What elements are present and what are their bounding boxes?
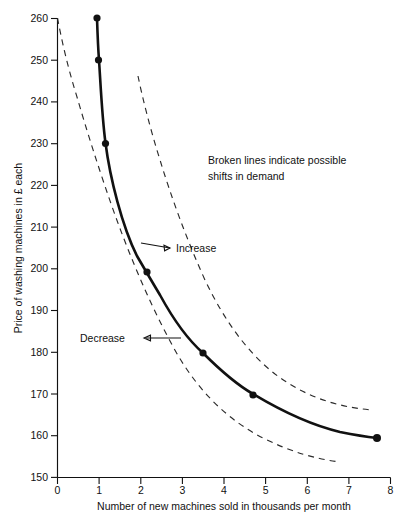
y-tick-label-190: 190 [30,304,48,316]
increase-label: Increase [176,242,216,254]
data-point-3 [102,140,109,147]
x-tick-label-1: 1 [96,484,102,496]
y-axis-ticks [51,19,58,478]
data-point-4 [143,268,150,275]
demand-curve-chart: 260 250 240 230 220 210 200 190 180 170 … [0,0,404,519]
x-tick-label-3: 3 [179,484,185,496]
y-tick-label-160: 160 [30,429,48,441]
y-tick-label-170: 170 [30,388,48,400]
data-point-7 [373,434,381,442]
y-axis-title: Price of washing machines in £ each [12,163,24,334]
y-tick-label-260: 260 [30,12,48,24]
chart-svg: 260 250 240 230 220 210 200 190 180 170 … [0,0,404,519]
y-tick-label-180: 180 [30,346,48,358]
y-tick-label-240: 240 [30,95,48,107]
y-tick-label-200: 200 [30,262,48,274]
x-tick-label-0: 0 [55,484,61,496]
y-axis-tick-labels: 260 250 240 230 220 210 200 190 180 170 … [30,12,48,483]
x-tick-label-8: 8 [388,484,394,496]
y-tick-label-210: 210 [30,221,48,233]
y-tick-label-230: 230 [30,137,48,149]
broken-lines-note-line1: Broken lines indicate possible [208,154,346,166]
broken-lines-note: Broken lines indicate possible shifts in… [208,154,346,182]
x-tick-label-7: 7 [346,484,352,496]
y-tick-label-150: 150 [30,471,48,483]
broken-lines-note-line2: shifts in demand [208,170,285,182]
x-axis-tick-labels: 0 1 2 3 4 5 6 7 8 [55,484,394,496]
x-axis-title: Number of new machines sold in thousands… [97,500,351,512]
x-tick-label-5: 5 [263,484,269,496]
decrease-label: Decrease [80,332,125,344]
axes [58,18,391,478]
increase-annotation: Increase [141,242,216,254]
data-point-5 [199,349,206,356]
increase-shift-curve [138,76,372,410]
demand-curve-markers [93,14,381,442]
x-tick-label-4: 4 [221,484,227,496]
data-point-2 [95,56,102,63]
data-point-6 [249,391,256,398]
x-tick-label-2: 2 [138,484,144,496]
y-tick-label-220: 220 [30,179,48,191]
x-tick-label-6: 6 [304,484,310,496]
y-tick-label-250: 250 [30,54,48,66]
data-point-1 [93,14,100,21]
